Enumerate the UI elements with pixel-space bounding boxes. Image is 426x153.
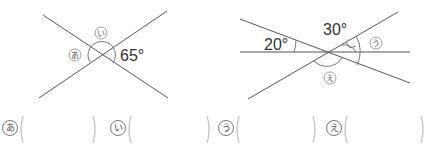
open-paren: ( xyxy=(235,114,241,144)
mark-a: あ xyxy=(71,51,79,60)
answer-mark-u: う xyxy=(218,120,234,136)
answer-u[interactable]: う ( ) xyxy=(218,114,318,144)
arc-e xyxy=(314,58,342,66)
arc-20 xyxy=(294,40,296,52)
answer-mark-e: え xyxy=(326,120,342,136)
angle-30-label: 30° xyxy=(323,21,347,38)
arc-u xyxy=(356,36,360,65)
open-paren: ( xyxy=(343,114,349,144)
left-labels: い あ 65° xyxy=(69,27,144,64)
arc-65 xyxy=(113,47,116,63)
close-paren: ) xyxy=(419,114,425,144)
close-paren: ) xyxy=(311,114,317,144)
angle-20-label: 20° xyxy=(264,36,288,53)
answer-i[interactable]: い ( ) xyxy=(110,114,210,144)
open-paren: ( xyxy=(127,114,133,144)
answer-mark-i: い xyxy=(110,120,126,136)
close-paren: ) xyxy=(91,114,97,144)
left-figure xyxy=(39,11,168,98)
answer-a[interactable]: あ ( ) xyxy=(2,114,97,144)
close-paren: ) xyxy=(205,114,211,144)
mark-e: え xyxy=(326,74,334,83)
angle-diagram: い あ 65° 20° 30° う え xyxy=(0,0,426,110)
answer-e[interactable]: え ( ) xyxy=(326,114,426,144)
arc-a xyxy=(88,48,90,62)
open-paren: ( xyxy=(19,114,25,144)
angle-65-label: 65° xyxy=(120,47,144,64)
mark-i: い xyxy=(97,29,105,38)
arc-30 xyxy=(341,45,356,52)
mark-u: う xyxy=(372,39,380,48)
line-a xyxy=(43,15,168,98)
answer-mark-a: あ xyxy=(2,120,18,136)
arc-i-a xyxy=(90,41,113,48)
